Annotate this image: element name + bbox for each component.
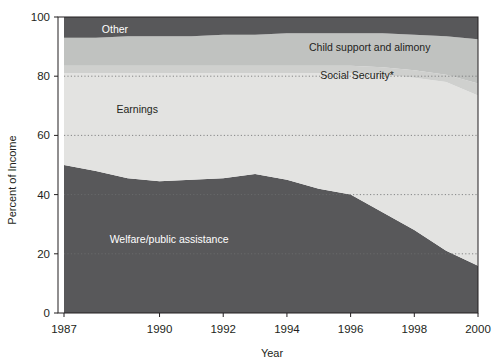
x-tick-label: 1990 [147,323,173,335]
x-tick-label: 1994 [274,323,300,335]
y-tick-label: 100 [31,11,50,23]
y-tick-label: 40 [37,189,50,201]
y-tick-label: 60 [37,129,50,141]
series-annotation-label: Welfare/public assistance [110,233,229,245]
y-tick-label: 80 [37,70,50,82]
chart-container: 020406080100 198719901992199419961998200… [0,0,501,363]
x-tick-label: 1987 [51,323,77,335]
stacked-area-chart: 020406080100 198719901992199419961998200… [0,0,501,363]
series-annotation-label: Earnings [117,103,158,115]
x-tick-label: 1992 [210,323,236,335]
x-axis-label: Year [261,347,284,359]
x-tick-label: 1998 [402,323,428,335]
area-series-group [64,17,478,313]
y-tick-label: 0 [44,307,50,319]
series-annotation-label: Social Security* [320,69,394,81]
series-annotation-label: Child support and alimony [309,41,431,53]
series-annotation-label: Other [102,23,129,35]
x-tick-label: 2000 [465,323,491,335]
y-tick-label: 20 [37,248,50,260]
y-axis-label: Percent of Income [6,135,18,224]
x-tick-label: 1996 [338,323,364,335]
